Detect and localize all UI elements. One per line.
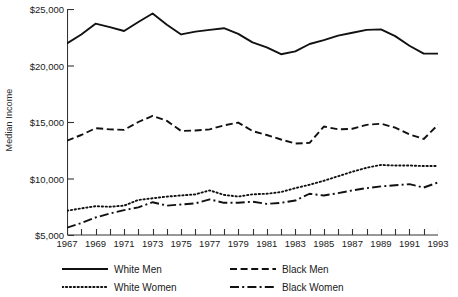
series-line-white-men [67,14,438,55]
legend-label: White Women [114,282,177,293]
y-tick-label: $10,000 [16,173,64,184]
legend-line-swatch-dashdot [230,281,276,293]
series-line-black-men [67,116,438,144]
legend-line-swatch-dotted [62,281,108,293]
legend-item-white-women[interactable]: White Women [62,280,177,294]
income-line-chart: Median Income $25,000$20,000$15,000$10,0… [0,0,458,297]
x-tick-label: 1971 [113,238,134,249]
x-tick-label: 1979 [228,238,249,249]
legend-line-swatch-solid [62,263,108,275]
x-tick-label: 1983 [285,238,306,249]
x-tick-label: 1969 [85,238,106,249]
legend-line-swatch-dashed [230,263,276,275]
y-tick-label: $20,000 [16,60,64,71]
x-axis-tick-labels: 1967196919711973197519771979198119831985… [67,238,438,254]
x-tick-label: 1989 [370,238,391,249]
legend-item-white-men[interactable]: White Men [62,262,162,276]
x-tick-label: 1987 [342,238,363,249]
y-tick-label: $25,000 [16,4,64,15]
x-tick-label: 1975 [171,238,192,249]
x-tick-label: 1977 [199,238,220,249]
legend-item-black-men[interactable]: Black Men [230,262,329,276]
x-tick-label: 1967 [56,238,77,249]
x-tick-label: 1973 [142,238,163,249]
x-tick-label: 1981 [256,238,277,249]
legend-label: White Men [114,264,162,275]
plot-area [67,9,438,235]
x-tick-label: 1985 [313,238,334,249]
chart-canvas [67,9,438,236]
legend-label: Black Women [282,282,344,293]
x-tick-label: 1991 [399,238,420,249]
legend-item-black-women[interactable]: Black Women [230,280,344,294]
y-axis-tick-labels: $25,000$20,000$15,000$10,000$5,000 [12,0,64,297]
x-tick-label: 1993 [427,238,448,249]
series-line-white-women [67,165,438,211]
chart-legend: White MenBlack MenWhite WomenBlack Women [62,262,392,296]
y-tick-label: $15,000 [16,117,64,128]
legend-label: Black Men [282,264,329,275]
